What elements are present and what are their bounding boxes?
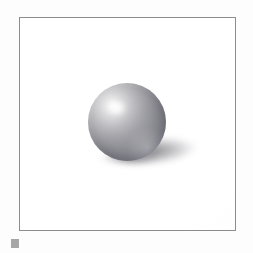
sphere	[88, 83, 166, 161]
sphere-bounce-light	[88, 83, 166, 161]
corner-marker-square	[11, 239, 19, 248]
sphere-specular-highlight	[105, 98, 129, 118]
picture-frame	[19, 17, 236, 231]
image-canvas	[0, 0, 253, 253]
